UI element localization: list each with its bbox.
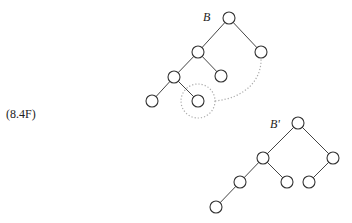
tree-b-prime: B' [210, 117, 339, 213]
tree-b-node [146, 95, 158, 107]
tree-b-prime-edge [313, 162, 329, 178]
tree-b-prime-node [303, 176, 315, 188]
tree-b-prime-edge [267, 127, 294, 154]
tree-b-prime-edge [267, 162, 283, 178]
tree-b-node [255, 46, 267, 58]
tree-b-prime-edge [244, 162, 259, 177]
tree-b-edge [233, 22, 257, 47]
tree-b-node [192, 95, 204, 107]
tree-b-node [223, 12, 235, 24]
tree-b-edge [178, 81, 194, 97]
tree-b-edge [156, 81, 170, 96]
tree-b-prime-node [292, 117, 304, 129]
tree-b-node [192, 46, 204, 58]
tree-b-label: B [203, 10, 211, 24]
tree-b-prime-node [210, 201, 222, 213]
tree-b-edge [178, 56, 194, 72]
tree-b: B [146, 10, 267, 118]
tree-b-node [215, 70, 227, 82]
tree-b-prime-node [234, 176, 246, 188]
tree-b-prime-edge [220, 186, 236, 202]
tree-b-prime-node [281, 176, 293, 188]
tree-b-prime-node [327, 152, 339, 164]
tree-b-node [168, 71, 180, 83]
tree-b-prime-label: B' [270, 117, 280, 131]
tree-b-prime-edge [302, 127, 329, 154]
tree-b-edge [202, 22, 225, 47]
tree-b-edge [202, 56, 217, 71]
tree-diagram: (8.4F) B B' [0, 0, 352, 223]
tree-b-prime-node [257, 152, 269, 164]
equation-label: (8.4F) [6, 107, 36, 121]
